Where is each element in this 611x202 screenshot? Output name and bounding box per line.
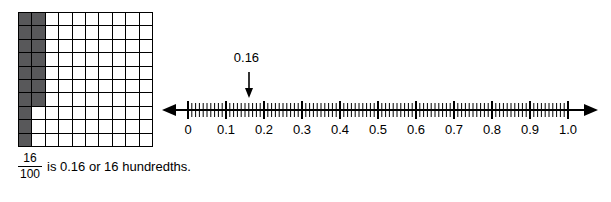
grid-cell bbox=[139, 93, 152, 106]
grid-cell bbox=[59, 53, 72, 66]
grid-cell bbox=[59, 120, 72, 133]
grid-row bbox=[19, 79, 153, 92]
grid-cell bbox=[126, 53, 139, 66]
grid-row bbox=[19, 133, 153, 146]
grid-cell bbox=[72, 120, 85, 133]
axis-tick-label: 0.8 bbox=[483, 122, 501, 137]
grid-cell-shaded bbox=[32, 53, 45, 66]
grid-cell-shaded bbox=[32, 39, 45, 52]
grid-cell bbox=[139, 66, 152, 79]
grid-cell-shaded bbox=[32, 13, 45, 26]
grid-row bbox=[19, 106, 153, 119]
grid-cell-shaded bbox=[19, 133, 32, 146]
grid-cell bbox=[85, 13, 98, 26]
axis-tick-label: 1.0 bbox=[559, 122, 577, 137]
axis-tick-label: 0.3 bbox=[293, 122, 311, 137]
grid-cell bbox=[45, 66, 58, 79]
grid-cell bbox=[72, 26, 85, 39]
fraction-numerator: 16 bbox=[21, 152, 38, 165]
grid-cell-shaded bbox=[19, 66, 32, 79]
grid-cell bbox=[99, 53, 112, 66]
grid-cell bbox=[32, 106, 45, 119]
grid-cell bbox=[85, 66, 98, 79]
grid-row bbox=[19, 93, 153, 106]
axis-tick-label: 0.1 bbox=[217, 122, 235, 137]
grid-cell bbox=[112, 79, 125, 92]
grid-cell bbox=[45, 120, 58, 133]
grid-cell bbox=[126, 106, 139, 119]
grid-cell bbox=[139, 120, 152, 133]
grid-cell bbox=[72, 13, 85, 26]
grid-cell bbox=[45, 13, 58, 26]
grid-cell bbox=[112, 13, 125, 26]
grid-cell bbox=[59, 13, 72, 26]
grid-cell-shaded bbox=[19, 39, 32, 52]
grid-cell bbox=[139, 133, 152, 146]
grid-cell bbox=[126, 93, 139, 106]
grid-cell bbox=[72, 93, 85, 106]
grid-cell bbox=[72, 53, 85, 66]
grid-row bbox=[19, 120, 153, 133]
grid-cell bbox=[72, 39, 85, 52]
hundredths-grid bbox=[18, 12, 142, 136]
grid-cell bbox=[112, 66, 125, 79]
grid-cell bbox=[112, 39, 125, 52]
grid-cell bbox=[139, 13, 152, 26]
grid-cell bbox=[126, 133, 139, 146]
grid-cell bbox=[139, 53, 152, 66]
grid-cell bbox=[72, 79, 85, 92]
grid-cell bbox=[112, 53, 125, 66]
axis-tick-label: 0.5 bbox=[369, 122, 387, 137]
grid-cell bbox=[85, 53, 98, 66]
caption-text: is 0.16 or 16 hundredths. bbox=[47, 159, 191, 174]
number-line-figure: 0.16 00.10.20.30.40.50.60.70.80.91.0 bbox=[160, 50, 600, 150]
axis-arrow-left bbox=[162, 104, 176, 116]
grid-cell bbox=[59, 26, 72, 39]
axis-tick-label: 0.9 bbox=[521, 122, 539, 137]
axis-tick-label: 0.6 bbox=[407, 122, 425, 137]
grid-cell-shaded bbox=[19, 120, 32, 133]
fraction-denominator: 100 bbox=[18, 168, 42, 181]
grid-cell bbox=[139, 26, 152, 39]
grid-cell bbox=[99, 66, 112, 79]
grid-cell bbox=[45, 79, 58, 92]
grid-cell-shaded bbox=[19, 53, 32, 66]
grid-cell bbox=[59, 133, 72, 146]
grid-cell bbox=[126, 79, 139, 92]
grid-cell bbox=[112, 133, 125, 146]
grid-cell-shaded bbox=[32, 26, 45, 39]
grid-cell bbox=[45, 93, 58, 106]
grid-cell bbox=[99, 106, 112, 119]
grid-row bbox=[19, 53, 153, 66]
grid-row bbox=[19, 13, 153, 26]
grid-cell bbox=[126, 120, 139, 133]
grid-cell bbox=[59, 106, 72, 119]
axis-tick-label: 0.4 bbox=[331, 122, 349, 137]
grid-cell bbox=[59, 39, 72, 52]
point-label-0-16: 0.16 bbox=[234, 50, 259, 65]
grid-cell-shaded bbox=[19, 26, 32, 39]
axis-tick-label: 0 bbox=[184, 122, 191, 137]
grid-cell bbox=[139, 79, 152, 92]
grid-cell bbox=[112, 26, 125, 39]
grid-cell bbox=[59, 93, 72, 106]
grid-cell bbox=[45, 106, 58, 119]
grid-cell bbox=[139, 39, 152, 52]
grid-cell bbox=[85, 120, 98, 133]
axis-arrow-right bbox=[584, 104, 598, 116]
grid-cell bbox=[99, 13, 112, 26]
grid-cell bbox=[99, 39, 112, 52]
grid-cell bbox=[112, 93, 125, 106]
fraction-sixteen-hundredths: 16 100 bbox=[18, 152, 42, 180]
grid-cell bbox=[85, 133, 98, 146]
grid-cell bbox=[72, 106, 85, 119]
grid-cell-shaded bbox=[32, 79, 45, 92]
grid-row bbox=[19, 66, 153, 79]
grid-caption: 16 100 is 0.16 or 16 hundredths. bbox=[18, 152, 191, 180]
grid-cell bbox=[72, 66, 85, 79]
axis-tick-label: 0.2 bbox=[255, 122, 273, 137]
grid-cell-shaded bbox=[32, 93, 45, 106]
grid-cell bbox=[126, 66, 139, 79]
axis-tick-label: 0.7 bbox=[445, 122, 463, 137]
grid-cell bbox=[112, 120, 125, 133]
